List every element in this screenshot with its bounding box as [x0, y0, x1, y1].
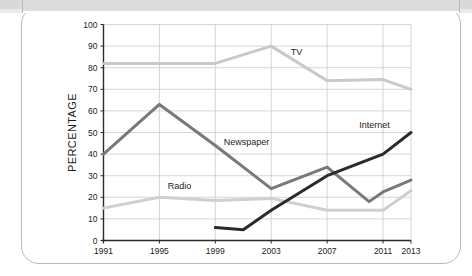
y-tick-label: 40: [88, 149, 98, 159]
y-tick-label: 0: [93, 236, 98, 246]
y-tick-label: 80: [88, 63, 98, 73]
x-tick-label: 2013: [402, 246, 421, 256]
y-axis-title: PERCENTAGE: [66, 93, 78, 172]
y-tick-label: 30: [88, 171, 98, 181]
x-tick-label: 2007: [318, 246, 337, 256]
series-label-internet: Internet: [359, 120, 390, 130]
x-tick-label: 2011: [374, 246, 393, 256]
series-label-tv: TV: [291, 47, 303, 57]
x-tick-label: 1991: [94, 246, 113, 256]
y-tick-label: 100: [83, 20, 97, 30]
series-line-newspaper: [104, 104, 412, 201]
chart-svg: 0102030405060708090100199119951999200320…: [0, 0, 472, 276]
y-tick-label: 10: [88, 214, 98, 224]
series-label-newspaper: Newspaper: [224, 137, 270, 147]
x-tick-label: 1995: [150, 246, 169, 256]
series-line-radio: [104, 191, 412, 210]
y-tick-label: 70: [88, 84, 98, 94]
line-chart: 0102030405060708090100199119951999200320…: [0, 0, 472, 276]
x-tick-label: 1999: [206, 246, 225, 256]
screenshot-root: 0102030405060708090100199119951999200320…: [0, 0, 472, 276]
y-tick-label: 90: [88, 41, 98, 51]
y-tick-label: 50: [88, 128, 98, 138]
series-label-radio: Radio: [168, 181, 192, 191]
y-tick-label: 60: [88, 106, 98, 116]
y-tick-label: 20: [88, 192, 98, 202]
x-tick-label: 2003: [262, 246, 281, 256]
